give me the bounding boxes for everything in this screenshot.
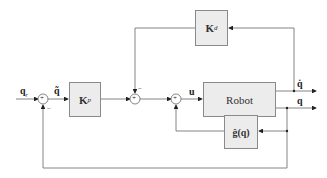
error-label: q̃ [54, 86, 60, 96]
sum1-minus: − [47, 106, 51, 113]
position-output-label: q [297, 96, 303, 106]
sum3-plus: + [173, 95, 177, 102]
robot-block: Robot [203, 82, 276, 117]
kd-block: Kd [195, 10, 228, 46]
sum2-minus: − [138, 86, 142, 93]
velocity-output-label: q̇ [297, 79, 303, 89]
gravity-compensation-block: ĝ(q) [224, 115, 258, 149]
sum1-plus: + [40, 95, 44, 102]
sum2-plus: + [132, 95, 136, 102]
reference-label: qr [20, 86, 28, 98]
input-label: u [189, 87, 195, 97]
diagram-wires [0, 0, 327, 178]
kp-block: Kp [69, 82, 101, 117]
